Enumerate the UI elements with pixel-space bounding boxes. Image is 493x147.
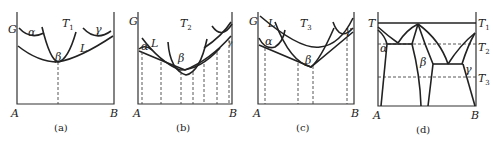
panel-d-axes xyxy=(378,12,476,106)
panel-d-alpha-liquidus xyxy=(378,27,398,43)
panel-d-t3-label: T3 xyxy=(478,72,490,87)
panel-a-alpha-label: α xyxy=(28,26,36,39)
panel-c-x-right-label: B xyxy=(350,107,359,120)
panel-c-caption: (c) xyxy=(296,122,310,133)
panel-d-t1-label: T1 xyxy=(478,17,490,32)
panel-b-alpha-label: α xyxy=(141,40,149,53)
panel-d-alpha-label: α xyxy=(380,42,388,55)
panel-c-liquid-label: L xyxy=(267,17,275,30)
panel-c-temp-label: T3 xyxy=(300,17,312,32)
panel-b-liquid-right xyxy=(204,22,231,48)
panel-b-beta-label: β xyxy=(177,52,184,65)
panel-a-x-right-label: B xyxy=(109,107,118,120)
panel-a-y-label: G xyxy=(8,23,17,36)
panel-a-gamma-label: γ xyxy=(95,23,102,36)
free-energy-phase-diagram-figure: G T1 α β γ L A B (a) G T2 α L β γ A xyxy=(0,0,493,147)
panel-a-caption: (a) xyxy=(54,122,68,133)
panel-c-alpha-label: α xyxy=(265,35,273,48)
panel-a: G T1 α β γ L A B (a) xyxy=(8,12,118,133)
panel-d-gamma-label: γ xyxy=(465,63,472,76)
panel-c-x-left-label: A xyxy=(252,107,261,120)
panel-a-temp-label: T1 xyxy=(62,17,74,32)
panel-c-y-label: G xyxy=(249,15,258,28)
panel-b-temp-label: T2 xyxy=(180,17,192,32)
panel-d: T T1 T2 T3 α β γ A B (d) xyxy=(368,12,490,135)
panel-a-liquid-label: L xyxy=(79,42,87,55)
panel-a-beta-label: β xyxy=(54,51,61,64)
panel-a-liquid-curve xyxy=(18,36,113,62)
panel-d-caption: (d) xyxy=(416,124,430,135)
panel-b-y-label: G xyxy=(129,15,138,28)
panel-d-x-left-label: A xyxy=(372,109,381,122)
panel-d-x-right-label: B xyxy=(470,109,479,122)
panel-c-beta-label: β xyxy=(304,54,311,67)
panel-a-x-left-label: A xyxy=(10,107,19,120)
panel-b-x-left-label: A xyxy=(132,107,141,120)
panel-d-y-label: T xyxy=(368,17,377,30)
panel-d-gamma-liquidus xyxy=(448,33,475,64)
panel-b-x-right-label: B xyxy=(228,107,237,120)
panel-d-t2-label: T2 xyxy=(478,41,490,56)
panel-b: G T2 α L β γ A B (b) xyxy=(129,12,237,133)
panel-c: G L T3 α β γ A B (c) xyxy=(249,12,359,133)
panel-c-gamma-label: γ xyxy=(345,24,352,37)
panel-b-liquid-label: L xyxy=(150,37,158,50)
panel-b-caption: (b) xyxy=(176,122,190,133)
panel-d-beta-label: β xyxy=(419,56,426,69)
